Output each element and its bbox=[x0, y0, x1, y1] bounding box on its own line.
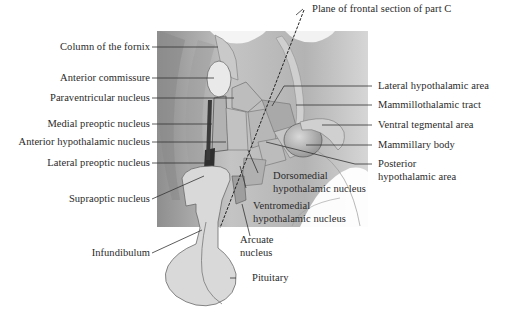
label-mammillothalamic-tract: Mammillothalamic tract bbox=[378, 99, 481, 112]
label-ventral-tegmental-area: Ventral tegmental area bbox=[378, 119, 474, 132]
label-posterior-line1: Posterior bbox=[378, 158, 456, 171]
label-column-of-the-fornix: Column of the fornix bbox=[60, 41, 150, 54]
label-medial-preoptic-nucleus: Medial preoptic nucleus bbox=[47, 118, 150, 131]
label-anterior-hypothalamic-nucleus: Anterior hypothalamic nucleus bbox=[19, 136, 151, 149]
label-infundibulum: Infundibulum bbox=[92, 247, 150, 260]
label-ventromedial-hypothalamic-nucleus: Ventromedial hypothalamic nucleus bbox=[253, 200, 346, 225]
label-plane-of-frontal-section: Plane of frontal section of part C bbox=[312, 3, 451, 16]
label-dorsomedial-line1: Dorsomedial bbox=[273, 170, 366, 183]
label-lateral-hypothalamic-area: Lateral hypothalamic area bbox=[378, 80, 489, 93]
label-dorsomedial-line2: hypothalamic nucleus bbox=[273, 183, 366, 196]
label-anterior-commissure: Anterior commissure bbox=[60, 72, 150, 85]
label-supraoptic-nucleus: Supraoptic nucleus bbox=[69, 193, 150, 206]
label-paraventricular-nucleus: Paraventricular nucleus bbox=[50, 92, 150, 105]
hypothalamus-diagram: Column of the fornix Anterior commissure… bbox=[0, 0, 506, 316]
label-arcuate-line1: Arcuate bbox=[240, 234, 274, 247]
label-arcuate-line2: nucleus bbox=[240, 247, 274, 260]
label-ventromedial-line1: Ventromedial bbox=[253, 200, 346, 213]
label-arcuate-nucleus: Arcuate nucleus bbox=[240, 234, 274, 259]
anterior-commissure-shape bbox=[207, 61, 231, 97]
label-mammillary-body: Mammillary body bbox=[378, 139, 455, 152]
label-pituitary: Pituitary bbox=[252, 272, 289, 285]
preoptic-column bbox=[212, 96, 228, 152]
label-posterior-line2: hypothalamic area bbox=[378, 171, 456, 184]
label-posterior-hypothalamic-area: Posterior hypothalamic area bbox=[378, 158, 456, 183]
label-lateral-preoptic-nucleus: Lateral preoptic nucleus bbox=[47, 157, 150, 170]
label-dorsomedial-hypothalamic-nucleus: Dorsomedial hypothalamic nucleus bbox=[273, 170, 366, 195]
label-ventromedial-line2: hypothalamic nucleus bbox=[253, 213, 346, 226]
